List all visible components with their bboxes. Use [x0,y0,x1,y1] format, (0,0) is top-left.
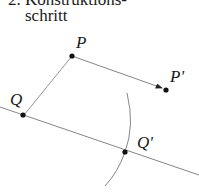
point-p-prime [163,87,168,92]
point-q-prime [122,149,127,154]
label-p: P [75,33,86,52]
label-p-prime: P' [169,67,184,86]
compass-arc [105,93,131,186]
label-q: Q [10,90,22,109]
label-q-prime: Q' [137,133,153,152]
segment-q-p [24,56,72,115]
construction-diagram: P P' Q Q' [0,0,199,192]
point-p [69,53,74,58]
vector-p-pprime [72,56,162,88]
line-q-qprime [0,107,199,175]
point-q [20,112,25,117]
